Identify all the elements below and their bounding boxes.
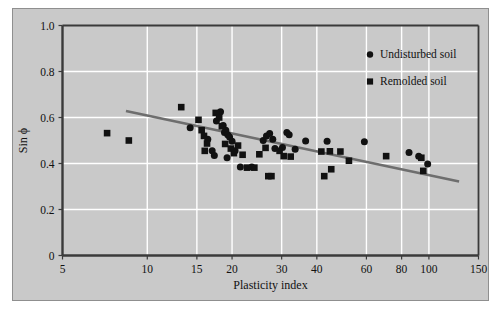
- y-axis-title: Sin ϕ: [16, 128, 30, 153]
- data-point-square: [280, 153, 287, 160]
- data-point-circle: [324, 138, 331, 145]
- x-tick-label: 15: [191, 263, 203, 275]
- figure-container: 510152030406080100150 00.20.40.60.81.0 P…: [0, 0, 501, 311]
- data-point-square: [383, 153, 390, 160]
- data-point-square: [327, 148, 334, 155]
- data-point-square: [328, 166, 335, 173]
- scatter-chart: 510152030406080100150 00.20.40.60.81.0 P…: [0, 0, 501, 311]
- y-tick-label: 1.0: [40, 20, 55, 32]
- data-point-square: [418, 154, 425, 161]
- x-tick-label: 10: [142, 263, 154, 275]
- data-point-square: [239, 151, 246, 158]
- data-point-circle: [424, 160, 431, 167]
- data-point-square: [346, 157, 353, 164]
- data-point-square: [195, 117, 202, 124]
- legend-label: Undisturbed soil: [380, 48, 456, 60]
- data-point-circle: [406, 149, 413, 156]
- data-point-circle: [286, 131, 293, 138]
- data-point-square: [231, 150, 238, 157]
- y-tick-label: 0.4: [40, 158, 55, 170]
- legend-marker-square: [367, 78, 373, 84]
- data-point-square: [287, 153, 294, 160]
- x-tick-label: 30: [276, 263, 288, 275]
- data-point-circle: [302, 137, 309, 144]
- y-tick-label: 0.2: [40, 204, 55, 216]
- y-tick-label: 0.8: [40, 66, 55, 78]
- data-point-square: [256, 151, 263, 158]
- data-point-square: [235, 142, 242, 149]
- y-tick-label: 0: [49, 250, 55, 262]
- y-axis-ticks: 00.20.40.60.81.0: [40, 20, 62, 262]
- data-point-circle: [292, 146, 299, 153]
- data-point-square: [420, 168, 427, 175]
- legend-label: Remolded soil: [380, 75, 447, 87]
- x-tick-label: 60: [361, 263, 373, 275]
- x-tick-label: 150: [470, 263, 488, 275]
- data-point-square: [178, 104, 185, 111]
- data-point-square: [216, 114, 223, 121]
- x-tick-label: 20: [226, 263, 238, 275]
- legend-marker-circle: [367, 51, 373, 57]
- x-axis-title: Plasticity index: [233, 278, 307, 292]
- data-point-circle: [211, 152, 218, 159]
- data-point-square: [126, 137, 133, 144]
- x-tick-label: 100: [420, 263, 438, 275]
- data-point-square: [318, 148, 325, 155]
- data-point-square: [201, 133, 208, 140]
- chart-area: 510152030406080100150 00.20.40.60.81.0 P…: [0, 0, 501, 311]
- data-point-square: [268, 173, 275, 180]
- data-point-square: [222, 141, 229, 148]
- data-point-circle: [224, 154, 231, 161]
- data-point-circle: [361, 138, 368, 145]
- x-tick-label: 80: [396, 263, 408, 275]
- data-point-square: [104, 130, 111, 137]
- data-point-circle: [229, 138, 236, 145]
- data-point-square: [201, 148, 208, 155]
- x-axis-ticks: 510152030406080100150: [60, 256, 488, 275]
- data-point-square: [204, 140, 211, 147]
- data-point-square: [262, 145, 269, 152]
- x-tick-label: 40: [311, 263, 323, 275]
- data-point-square: [219, 123, 226, 130]
- data-point-square: [198, 127, 205, 134]
- data-point-square: [337, 148, 344, 155]
- data-point-square: [244, 164, 251, 171]
- y-tick-label: 0.6: [40, 112, 55, 124]
- data-point-circle: [187, 124, 194, 131]
- data-point-square: [251, 164, 258, 171]
- x-tick-label: 5: [60, 263, 66, 275]
- data-point-circle: [237, 163, 244, 170]
- data-point-square: [321, 173, 328, 180]
- data-point-circle: [269, 136, 276, 143]
